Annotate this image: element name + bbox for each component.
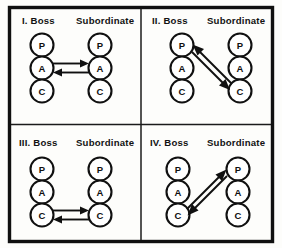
transactional-analysis-figure: I. Boss Subordinate P A C P A C [0, 0, 282, 248]
panel-2-subordinate-label-parent: P [237, 40, 244, 51]
panel-4-subordinate-label-parent: P [235, 164, 242, 175]
panel-2-boss-label-adult: A [179, 63, 186, 74]
panel-4-title-subordinate: Subordinate [207, 137, 265, 148]
panel-1-title-boss: I. Boss [22, 15, 55, 26]
panel-3-title-boss: III. Boss [19, 137, 58, 148]
panel-1-title-subordinate: Subordinate [76, 15, 134, 26]
panel-2-subordinate-label-adult: A [237, 63, 244, 74]
panel-4-boss-label-adult: A [175, 187, 182, 198]
panel-3-subordinate-label-parent: P [97, 164, 104, 175]
panel-4-subordinate-label-child: C [235, 210, 242, 221]
panel-2-boss-label-child: C [179, 86, 186, 97]
panel-1-subordinate-column: P A C [89, 34, 112, 103]
panel-4-boss-column: P A C [167, 158, 190, 227]
panel-2-boss-label-parent: P [179, 40, 186, 51]
panel-3-boss-label-adult: A [39, 187, 46, 198]
panel-1-subordinate-label-parent: P [97, 40, 104, 51]
panel-3-subordinate-column: P A C [89, 158, 112, 227]
panel-1-boss-label-adult: A [39, 63, 46, 74]
panel-4-subordinate-column: P A C [227, 158, 250, 227]
panel-1-boss-label-child: C [39, 86, 46, 97]
panel-2-boss-column: P A C [171, 34, 194, 103]
panel-2-subordinate-label-child: C [237, 86, 244, 97]
panel-1-boss-label-parent: P [39, 40, 46, 51]
panel-1-subordinate-label-child: C [97, 86, 104, 97]
panel-2-subordinate-column: P A C [229, 34, 252, 103]
panel-1-boss-column: P A C [31, 34, 54, 103]
panel-1-subordinate-label-adult: A [97, 63, 104, 74]
panel-4-subordinate-label-adult: A [235, 187, 242, 198]
panel-4-boss-label-parent: P [175, 164, 182, 175]
panel-2-title-subordinate: Subordinate [207, 15, 265, 26]
panel-3-title-subordinate: Subordinate [76, 137, 134, 148]
panel-2-title-boss: II. Boss [152, 15, 188, 26]
panel-4-boss-label-child: C [175, 210, 182, 221]
panel-3-boss-label-child: C [39, 210, 46, 221]
panel-4-title-boss: IV. Boss [150, 137, 189, 148]
panel-3-subordinate-label-adult: A [97, 187, 104, 198]
panel-3-subordinate-label-child: C [97, 210, 104, 221]
panel-3-boss-label-parent: P [39, 164, 46, 175]
panel-3-boss-column: P A C [31, 158, 54, 227]
